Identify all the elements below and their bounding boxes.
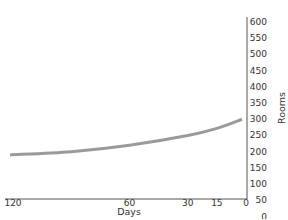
x-axis-title: Days	[117, 206, 141, 217]
rooms-over-days-chart: 050100150200250300350400450500550600 120…	[0, 0, 288, 219]
y-axis-title: Rooms	[276, 92, 287, 124]
y-tick-label: 100	[250, 179, 267, 189]
y-tick-label: 600	[250, 17, 267, 27]
y-tick-label: 300	[250, 114, 267, 124]
y-tick-label: 400	[250, 82, 267, 92]
y-tick-label: 250	[250, 130, 267, 140]
y-axis-ticks: 050100150200250300350400450500550600	[250, 17, 267, 219]
y-tick-label: 50	[256, 195, 268, 205]
y-tick-label: 150	[250, 163, 267, 173]
y-tick-label: 500	[250, 49, 267, 59]
rooms-line	[10, 119, 242, 155]
y-tick-label: 550	[250, 33, 267, 43]
y-tick-label: 450	[250, 66, 267, 76]
y-tick-label: 350	[250, 98, 267, 108]
y-tick-label: 200	[250, 147, 267, 157]
plot-area	[10, 119, 242, 155]
y-tick-label: 0	[261, 212, 267, 220]
